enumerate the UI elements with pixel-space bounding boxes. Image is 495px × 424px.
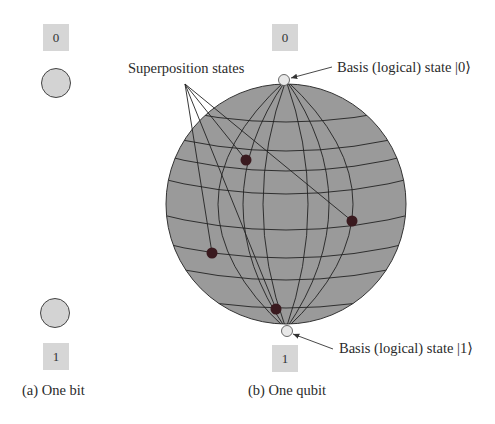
superposition-state-dot xyxy=(207,248,218,259)
bit-state-0-circle xyxy=(42,69,71,98)
basis-state-1-dot xyxy=(282,326,293,337)
bit-state-1-circle xyxy=(41,299,70,328)
superposition-state-dot xyxy=(347,216,358,227)
basis-0-arrow xyxy=(291,67,332,78)
basis-state-0-dot xyxy=(279,75,290,86)
diagram-canvas xyxy=(0,0,495,424)
superposition-state-dot xyxy=(271,304,282,315)
basis-1-arrow xyxy=(293,334,333,349)
superposition-state-dot xyxy=(241,155,252,166)
bloch-sphere xyxy=(150,80,422,329)
